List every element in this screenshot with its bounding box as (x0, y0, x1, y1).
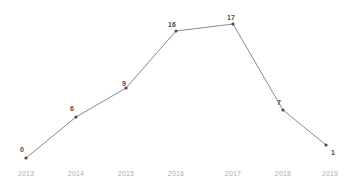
data-point-value-label: 7 (277, 99, 281, 106)
data-point-value-label: 1 (331, 149, 335, 156)
x-axis-tick-label: 2017 (225, 170, 241, 177)
x-axis-tick-label: 2016 (168, 170, 184, 177)
data-point-marker (74, 115, 77, 118)
data-point-markers (24, 22, 327, 159)
line-chart: 2013201420152016201720182019 069161771 (0, 0, 355, 192)
data-point-marker (174, 29, 177, 32)
data-point-marker (124, 86, 127, 89)
data-point-value-label: 17 (227, 14, 235, 21)
data-point-marker (281, 108, 284, 111)
data-point-value-label: 6 (70, 105, 74, 112)
data-point-marker (324, 143, 327, 146)
x-axis-tick-label: 2014 (68, 170, 84, 177)
data-point-value-label: 16 (168, 21, 176, 28)
data-point-marker (24, 156, 27, 159)
data-point-marker (231, 22, 234, 25)
x-axis-tick-label: 2013 (18, 170, 34, 177)
x-axis-tick-label: 2018 (275, 170, 291, 177)
data-point-value-label: 0 (20, 146, 24, 153)
series-line (26, 24, 326, 158)
chart-plot-area (0, 0, 355, 192)
x-axis-tick-label: 2019 (322, 170, 338, 177)
data-point-value-label: 9 (122, 80, 126, 87)
x-axis-tick-label: 2015 (118, 170, 134, 177)
